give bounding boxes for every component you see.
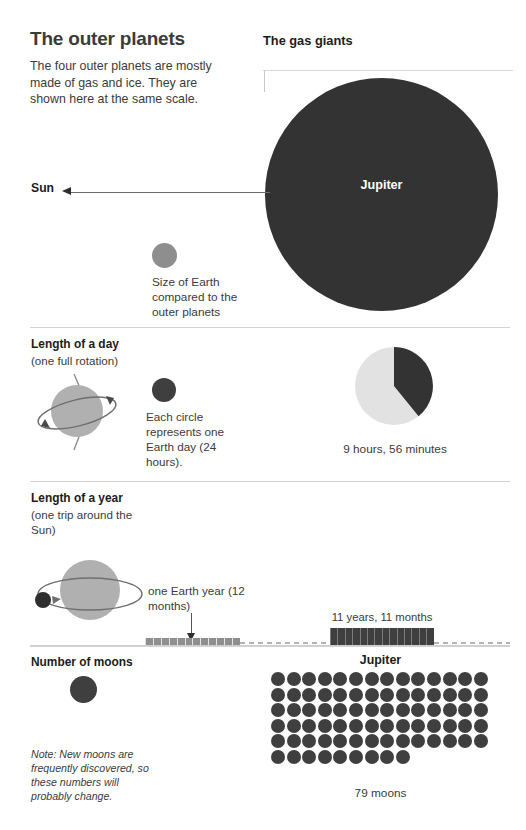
moon-dot [443,672,457,686]
moon-dot [287,672,301,686]
moons-note: Note: New moons are frequently discovere… [31,747,156,803]
moon-dot [318,750,332,764]
moon-dot [427,734,441,748]
moon-dot [380,703,394,717]
moon-dot [474,672,488,686]
moon-dot [302,734,316,748]
day-length-pie-chart [355,347,433,425]
moon-dot [349,688,363,702]
moon-dot [287,703,301,717]
moon-dot [396,688,410,702]
year-timeline-dashes [240,642,330,644]
moon-dot [458,688,472,702]
moon-dot [427,719,441,733]
year-timeline-dashes [434,642,510,644]
moon-dot [396,734,410,748]
jupiter-year-label: 11 years, 11 months [312,611,452,623]
moon-dot [318,688,332,702]
moon-dot [333,719,347,733]
earth-year-caption: one Earth year (12 months) [148,583,258,613]
moon-dot [287,688,301,702]
moon-dot [365,719,379,733]
moon-dot [333,688,347,702]
intro-paragraph: The four outer planets are mostly made o… [30,58,230,108]
jupiter-year-bar [330,628,434,645]
moon-dot [333,750,347,764]
moon-dot [365,672,379,686]
moon-dot [427,688,441,702]
moon-dot [396,703,410,717]
moon-dot [380,750,394,764]
moon-dot [302,719,316,733]
moon-dot [271,750,285,764]
section-divider [30,646,510,647]
jupiter-disc: Jupiter [265,78,498,311]
moons-planet-label: Jupiter [268,653,493,667]
moon-dot [458,703,472,717]
moon-dot [380,688,394,702]
moon-dot [380,734,394,748]
moon-dot [333,703,347,717]
moon-dot [302,672,316,686]
moon-dot [302,703,316,717]
jupiter-disc-label: Jupiter [265,178,498,192]
moon-dot [411,688,425,702]
moon-dot [349,719,363,733]
moon-dot [474,688,488,702]
rotation-illustration [28,362,132,460]
moon-dot [396,672,410,686]
moon-dot [287,734,301,748]
sun-pointer-line [70,192,270,193]
year-section-subheading: (one trip around the Sun) [31,507,151,537]
day-section-heading: Length of a day [31,337,119,351]
moon-dot [365,703,379,717]
moon-dot [318,734,332,748]
moon-dot [349,703,363,717]
moon-dot [443,719,457,733]
moon-dot [427,672,441,686]
moon-dot [271,703,285,717]
day-key-caption: Each circle represents one Earth day (24… [146,409,238,469]
moon-dot [443,703,457,717]
earth-day-dot-icon [152,378,176,402]
moon-dot [458,734,472,748]
day-length-caption: 9 hours, 56 minutes [300,442,490,456]
moon-dot [427,703,441,717]
moon-dot [349,672,363,686]
moon-dot [411,672,425,686]
scale-tick-icon [264,70,265,92]
moon-dot [474,719,488,733]
moon-dot [365,688,379,702]
page-title: The outer planets [30,28,185,50]
moon-dot [287,719,301,733]
section-divider [30,327,510,328]
moon-dot [318,719,332,733]
moon-dot [333,672,347,686]
moon-dot [396,719,410,733]
earth-year-bar [145,638,240,645]
scale-rule [263,70,513,71]
moon-dot [271,734,285,748]
moon-key-dot-icon [70,676,97,703]
moon-dot-grid [271,672,490,764]
earth-size-caption: Size of Earth compared to the outer plan… [152,275,250,320]
moon-dot [333,734,347,748]
orbiting-planet-icon [28,552,152,632]
moon-dot [458,672,472,686]
moon-dot [349,750,363,764]
moon-dot [271,672,285,686]
moon-dot [318,703,332,717]
moon-dot [411,719,425,733]
moon-dot [443,688,457,702]
moon-dot [302,688,316,702]
moon-dot [443,734,457,748]
moon-dot [271,688,285,702]
pie-slices [355,347,433,425]
moon-dot [287,750,301,764]
moon-dot [380,672,394,686]
moons-section-heading: Number of moons [31,655,133,669]
infographic-page: The outer planets The four outer planets… [0,0,526,830]
section-divider [30,481,510,482]
gas-giants-heading: The gas giants [263,33,353,48]
sun-arrow-icon [62,187,71,195]
